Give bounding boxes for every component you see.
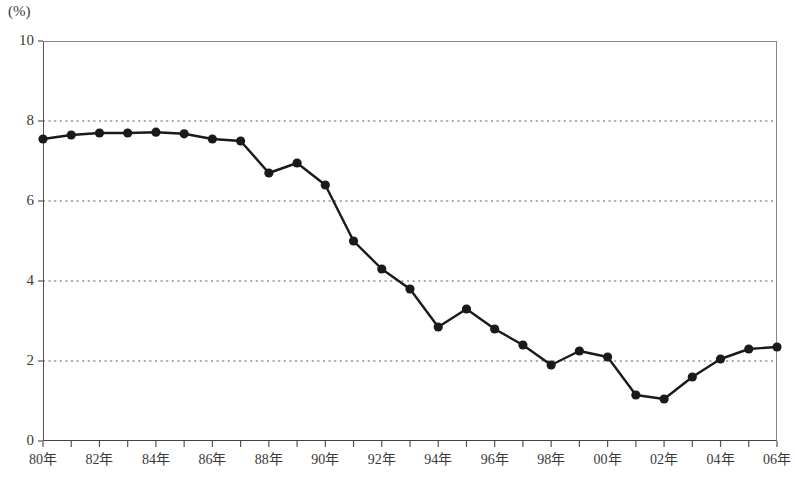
y-axis-tick-label: 8 [0,113,34,128]
plot-area [43,41,777,441]
y-axis-tick-label: 0 [0,433,34,448]
x-axis-tick-label: 04年 [693,452,749,468]
x-axis-tick-label: 94年 [410,452,466,468]
x-axis-tick-label: 92年 [354,452,410,468]
x-axis-tick-label: 86年 [184,452,240,468]
x-axis-tick-label: 82年 [71,452,127,468]
x-axis-tick-label: 96年 [467,452,523,468]
x-axis-tick-label: 00年 [580,452,636,468]
x-axis-tick-label: 84年 [128,452,184,468]
x-axis-tick-label: 80年 [15,452,71,468]
y-axis-unit-label: (%) [8,2,31,20]
x-axis-tick-label: 98年 [523,452,579,468]
y-axis-tick-label: 2 [0,353,34,368]
y-axis-tick-label: 6 [0,193,34,208]
x-axis-tick-label: 88年 [241,452,297,468]
x-axis-ticks [43,441,777,447]
x-axis-tick-label: 90年 [297,452,353,468]
x-axis-tick-label: 06年 [749,452,795,468]
y-axis-tick-label: 10 [0,33,34,48]
y-axis-tick-label: 4 [0,273,34,288]
x-axis-tick-label: 02年 [636,452,692,468]
